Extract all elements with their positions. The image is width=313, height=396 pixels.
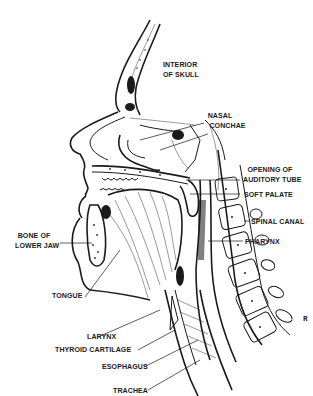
pharynx (196, 180, 236, 362)
hard-palate (92, 166, 190, 184)
label-thyroid-cartilage: THYROID CARTILAGE (55, 345, 131, 355)
label-esophagus: ESOPHAGUS (102, 362, 148, 372)
label-nasal-conchae: NASAL CONCHAE (205, 111, 246, 131)
label-soft-palate: SOFT PALATE (244, 190, 293, 200)
label-opening-of-auditory-tube: OPENING OF AUDITORY TUBE (243, 165, 302, 185)
label-larynx: LARYNX (87, 332, 116, 342)
nasal-conchae (119, 118, 200, 172)
frontal-bone (116, 20, 160, 115)
label-pharynx: PHARYNX (245, 237, 280, 247)
nose (70, 112, 125, 196)
label-interior-of-skull: INTERIOR OF SKULL (163, 60, 199, 80)
label-spinal-canal: SPINAL CANAL (251, 217, 304, 227)
soft-palate (180, 180, 199, 216)
label-bone-of-lower-jaw: BONE OF LOWER JAW (15, 231, 59, 251)
stray-mark: ʀ (303, 313, 308, 323)
label-tongue: TONGUE (52, 291, 83, 301)
tongue (108, 189, 184, 298)
label-trachea: TRACHEA (113, 386, 148, 396)
lower-jaw (72, 189, 150, 301)
